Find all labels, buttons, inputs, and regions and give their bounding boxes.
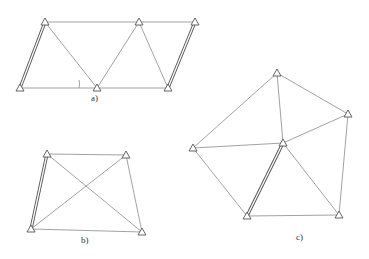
survey-line [193,143,283,148]
survey-line [283,143,339,215]
station-triangle-icon [344,110,352,117]
survey-line [47,154,126,155]
survey-line [247,215,339,216]
baseline-inner [247,143,283,216]
figure-b: b) [27,150,146,245]
angle-mark [79,80,80,88]
station-triangle-icon [135,18,143,25]
figure-label: b) [81,235,89,245]
figure-c: c) [189,69,352,242]
station-triangle-icon [27,225,35,232]
survey-line [31,229,142,232]
survey-line [45,22,97,88]
station-triangle-icon [138,228,146,235]
survey-line [193,73,277,148]
station-triangle-icon [41,18,49,25]
survey-line [339,114,348,215]
survey-line [139,22,168,88]
survey-line [283,114,348,143]
survey-line [277,73,283,143]
figure-a: a) [16,18,199,103]
figure-label: c) [296,232,303,242]
triangulation-diagram: a)b)c) [0,0,369,259]
survey-line [97,22,139,88]
baseline-inner [168,22,195,88]
figure-label: a) [91,93,98,103]
survey-line [277,73,348,114]
station-triangle-icon [191,18,199,25]
station-triangle-icon [273,69,281,76]
baseline-inner [31,154,47,229]
station-triangle-icon [279,139,287,146]
station-triangle-icon [122,151,130,158]
station-triangle-icon [43,150,51,157]
baseline-inner [20,22,45,88]
survey-line [47,154,142,232]
survey-line [193,148,247,216]
